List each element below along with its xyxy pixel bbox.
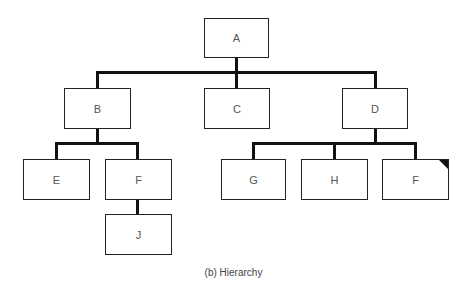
node-a: A [204,18,269,58]
connector-to-d [374,71,377,88]
connector-to-h [333,142,336,159]
connector-to-g [252,142,255,159]
connector-to-b [96,71,99,88]
connector-to-c [235,71,238,88]
node-label: C [233,103,241,115]
node-d: D [342,88,408,129]
node-label: H [331,174,339,186]
node-label: F [412,174,419,186]
connector-to-f [136,142,139,159]
node-label: B [94,103,101,115]
node-h: H [301,159,368,200]
node-label: D [371,103,379,115]
node-f: F [105,159,172,200]
node-c: C [204,88,270,129]
node-g: G [221,159,286,200]
node-e: E [23,159,90,200]
shared-node-corner-icon [439,160,448,169]
node-f-shared: F [382,159,449,200]
connector-f-to-j [136,199,139,214]
connector-to-f2 [414,142,417,159]
node-label: F [135,174,142,186]
connector-b-bar [55,142,139,145]
hierarchy-diagram: A B C D E F G H F J (b) Hierarchy [0,0,467,291]
figure-caption: (b) Hierarchy [0,267,467,278]
node-b: B [64,88,131,129]
node-j: J [105,214,172,255]
connector-to-e [55,142,58,159]
node-label: G [249,174,258,186]
node-label: E [53,174,60,186]
node-label: A [233,32,240,44]
node-label: J [136,229,142,241]
